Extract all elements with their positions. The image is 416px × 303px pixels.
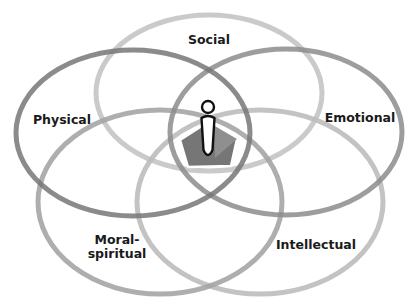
label-moral: Moral- <box>94 232 139 247</box>
label-physical: Physical <box>33 112 91 127</box>
label-emotional: Emotional <box>325 110 396 125</box>
label-spiritual: spiritual <box>88 246 147 261</box>
wellbeing-venn-diagram: Social Physical Emotional Moral- spiritu… <box>0 0 416 303</box>
ring-moral-spiritual <box>38 110 282 294</box>
label-intellectual: Intellectual <box>276 237 356 252</box>
person-icon <box>202 101 215 155</box>
label-social: Social <box>188 32 230 47</box>
